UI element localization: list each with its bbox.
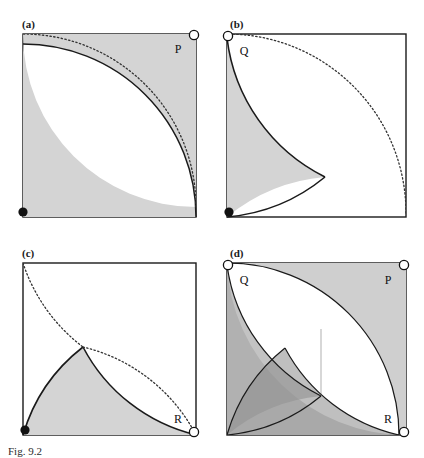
panel-d-label: (d) — [230, 247, 243, 259]
figure-root: (a) — [0, 0, 424, 458]
panel-d-vertex-r-label: R — [384, 412, 392, 426]
panel-c-svg: R — [0, 229, 212, 458]
panel-b-origin-dot — [224, 207, 233, 216]
panel-d-vertex-p-marker — [399, 260, 408, 269]
panel-a-svg: P — [0, 0, 212, 229]
panel-a-label: (a) — [22, 18, 35, 30]
panel-d-vertex-q-marker — [223, 260, 232, 269]
panel-a-vertex-p-label: P — [175, 42, 182, 56]
panel-b: (b) Q — [212, 0, 424, 229]
panel-b-vertex-q-marker — [223, 31, 232, 40]
panel-c-vertex-r-marker — [189, 427, 198, 436]
panel-c-label: (c) — [22, 247, 34, 259]
panel-c-vertex-r-label: R — [174, 412, 182, 426]
panel-a: (a) — [0, 0, 212, 229]
panel-c: (c) R — [0, 229, 212, 458]
figure-caption: Fig. 9.2 — [8, 444, 42, 458]
panel-d-svg: Q P R — [212, 229, 424, 458]
panel-c-origin-dot — [20, 425, 29, 434]
panel-a-origin-dot — [18, 207, 27, 216]
panel-a-vertex-p-marker — [189, 30, 198, 39]
panel-d-vertex-r-marker — [399, 427, 408, 436]
panel-d-vertex-q-label: Q — [240, 273, 249, 287]
panel-b-label: (b) — [230, 18, 243, 30]
panel-d: (d) — [212, 229, 424, 458]
panel-d-vertex-p-label: P — [385, 273, 392, 287]
panel-b-vertex-q-label: Q — [240, 44, 249, 58]
panel-b-svg: Q — [212, 0, 424, 229]
